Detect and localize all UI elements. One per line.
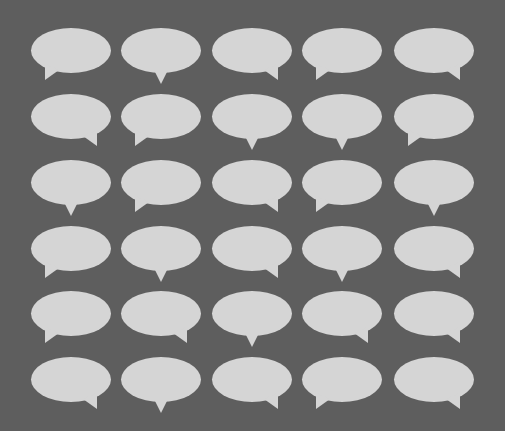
speech-bubble-icon (302, 291, 382, 351)
speech-bubble-icon (121, 94, 201, 154)
speech-bubble-icon (394, 94, 474, 154)
speech-bubble-icon (31, 94, 111, 154)
speech-bubble-icon (121, 160, 201, 220)
speech-bubble-icon (394, 160, 474, 220)
speech-bubble-icon (121, 28, 201, 88)
speech-bubble-icon (302, 357, 382, 417)
speech-bubble-icon (302, 160, 382, 220)
speech-bubble-icon (394, 226, 474, 286)
speech-bubble-icon (31, 160, 111, 220)
speech-bubble-icon (212, 291, 292, 351)
speech-bubble-icon (302, 226, 382, 286)
speech-bubble-icon (212, 94, 292, 154)
speech-bubble-pattern (0, 0, 505, 431)
speech-bubble-icon (212, 357, 292, 417)
speech-bubble-icon (121, 226, 201, 286)
speech-bubble-icon (302, 94, 382, 154)
speech-bubble-icon (394, 291, 474, 351)
speech-bubble-icon (394, 28, 474, 88)
speech-bubble-icon (31, 226, 111, 286)
speech-bubble-icon (394, 357, 474, 417)
speech-bubble-icon (302, 28, 382, 88)
speech-bubble-icon (31, 291, 111, 351)
speech-bubble-icon (212, 226, 292, 286)
speech-bubble-icon (212, 160, 292, 220)
speech-bubble-icon (121, 357, 201, 417)
speech-bubble-icon (121, 291, 201, 351)
speech-bubble-icon (31, 357, 111, 417)
speech-bubble-icon (31, 28, 111, 88)
speech-bubble-icon (212, 28, 292, 88)
